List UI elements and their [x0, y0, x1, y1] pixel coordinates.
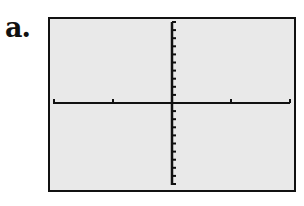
axes: [0, 0, 304, 206]
